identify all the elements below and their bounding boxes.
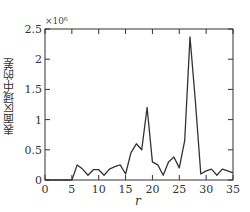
x-tick-label: 10 — [92, 183, 106, 196]
y-tick-label: 2 — [35, 53, 42, 66]
y-tick-label: 1 — [35, 114, 42, 127]
x-tick-label: 35 — [226, 183, 240, 196]
x-tick-label: 25 — [172, 183, 186, 196]
y-tick-label: 0.5 — [25, 144, 43, 157]
y-tick-label: 0 — [35, 174, 42, 187]
x-axis-ticks: 05101520253035 — [42, 29, 241, 196]
x-tick-label: 5 — [68, 183, 75, 196]
x-tick-label: 30 — [199, 183, 213, 196]
data-line — [45, 37, 233, 180]
y-axis-multiplier: ×10⁶ — [45, 16, 68, 26]
chart-canvas: 05101520253035 00.511.522.5 — [0, 0, 250, 212]
plot-frame — [45, 29, 233, 180]
x-tick-label: 0 — [42, 183, 49, 196]
y-axis-label: 表面区域中的差 — [4, 58, 18, 135]
x-tick-label: 15 — [119, 183, 133, 196]
x-tick-label: 20 — [145, 183, 159, 196]
y-tick-label: 1.5 — [25, 83, 43, 96]
x-axis-label: r — [135, 194, 141, 208]
y-tick-label: 2.5 — [25, 23, 43, 36]
